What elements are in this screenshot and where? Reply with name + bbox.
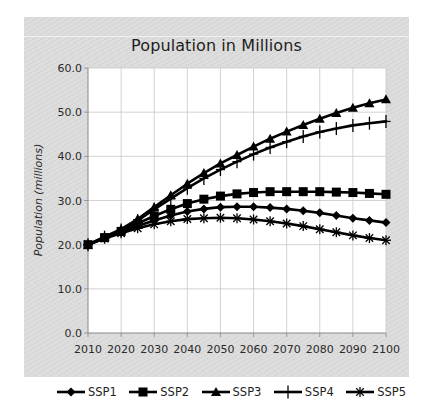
diamond-marker (67, 388, 76, 397)
legend-item-ssp1: SSP1 (56, 384, 117, 400)
square-marker (299, 187, 308, 196)
asterisk-marker (364, 233, 374, 243)
x-tick-label: 2090 (339, 343, 367, 356)
y-tick-label: 60.0 (58, 62, 83, 75)
square-marker (348, 188, 357, 197)
diamond-icon (56, 384, 86, 400)
legend-label: SSP4 (305, 385, 334, 399)
square-marker (233, 189, 242, 198)
square-marker (266, 187, 275, 196)
square-marker (282, 187, 291, 196)
y-tick-label: 40.0 (58, 150, 83, 163)
plus-icon (273, 384, 303, 400)
square-marker (216, 192, 225, 201)
plus-marker (283, 386, 292, 399)
asterisk-marker (83, 240, 93, 250)
y-tick-label: 50.0 (58, 106, 83, 119)
legend-item-ssp2: SSP2 (128, 384, 189, 400)
y-tick-label: 0.0 (65, 327, 83, 340)
square-marker (199, 195, 208, 204)
square-marker (249, 188, 258, 197)
square-marker (139, 388, 148, 397)
x-tick-label: 2010 (74, 343, 102, 356)
x-axis-tick-labels: 2010202020302040205020602070208020902100 (74, 343, 400, 356)
line-chart: 0.010.020.030.040.050.060.0 201020202030… (0, 0, 432, 418)
y-axis-title: Population (millions) (32, 144, 45, 257)
legend-label: SSP1 (88, 385, 117, 399)
square-marker (365, 189, 374, 198)
asterisk-marker (298, 221, 308, 231)
asterisk-marker (282, 218, 292, 228)
asterisk-marker (381, 235, 391, 245)
x-tick-label: 2030 (140, 343, 168, 356)
square-marker (183, 199, 192, 208)
square-marker (166, 205, 175, 214)
legend-item-ssp4: SSP4 (273, 384, 334, 400)
asterisk-marker (348, 230, 358, 240)
asterisk-marker (215, 213, 225, 223)
x-tick-label: 2060 (240, 343, 268, 356)
x-tick-label: 2080 (306, 343, 334, 356)
x-tick-label: 2070 (273, 343, 301, 356)
asterisk-marker (265, 216, 275, 226)
asterisk-marker (232, 213, 242, 223)
x-tick-label: 2050 (206, 343, 234, 356)
legend-item-ssp3: SSP3 (201, 384, 262, 400)
asterisk-marker (149, 219, 159, 229)
y-axis-tick-labels: 0.010.020.030.040.050.060.0 (58, 62, 83, 340)
x-tick-label: 2100 (372, 343, 400, 356)
asterisk-marker (355, 387, 365, 397)
x-tick-label: 2040 (173, 343, 201, 356)
asterisk-marker (166, 216, 176, 226)
asterisk-marker (133, 223, 143, 233)
legend-label: SSP2 (160, 385, 189, 399)
asterisk-marker (100, 233, 110, 243)
asterisk-marker (199, 213, 209, 223)
y-tick-label: 20.0 (58, 239, 83, 252)
legend-item-ssp5: SSP5 (345, 384, 406, 400)
square-icon (128, 384, 158, 400)
legend-label: SSP3 (233, 385, 262, 399)
triangle-icon (201, 384, 231, 400)
asterisk-marker (116, 228, 126, 238)
asterisk-marker (182, 214, 192, 224)
asterisk-icon (345, 384, 375, 400)
square-marker (382, 190, 391, 199)
chart-legend: SSP1SSP2SSP3SSP4SSP5 (56, 382, 406, 402)
y-tick-label: 10.0 (58, 283, 83, 296)
legend-label: SSP5 (377, 385, 406, 399)
y-tick-label: 30.0 (58, 195, 83, 208)
x-tick-label: 2020 (107, 343, 135, 356)
asterisk-marker (249, 214, 259, 224)
asterisk-marker (315, 224, 325, 234)
square-marker (332, 188, 341, 197)
square-marker (315, 187, 324, 196)
asterisk-marker (331, 227, 341, 237)
